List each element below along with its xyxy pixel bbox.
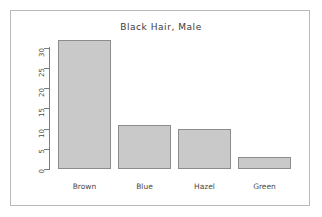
y-tick-label-20: 20 (38, 88, 46, 110)
y-tick-label-15: 15 (38, 108, 46, 130)
y-tick-label-wrap-30: 30 (20, 44, 42, 52)
y-tick-label-25: 25 (38, 68, 46, 90)
x-axis-label-green: Green (238, 182, 291, 191)
y-tick-label-5: 5 (38, 149, 46, 171)
x-axis-label-brown: Brown (58, 182, 111, 191)
chart-figure: Black Hair, Male 0 5 10 15 20 25 30 Brow… (0, 0, 322, 217)
bar-hazel (178, 129, 231, 169)
x-axis-label-hazel: Hazel (178, 182, 231, 191)
bar-brown (58, 40, 111, 169)
x-axis-label-blue: Blue (118, 182, 171, 191)
bar-green (238, 157, 291, 169)
figure-border (10, 10, 310, 206)
y-axis-line (49, 47, 50, 170)
y-tick-label-30: 30 (38, 48, 46, 70)
y-tick-label-10: 10 (38, 129, 46, 151)
y-tick-label-0: 0 (38, 169, 46, 191)
bar-blue (118, 125, 171, 169)
chart-title: Black Hair, Male (0, 22, 322, 32)
